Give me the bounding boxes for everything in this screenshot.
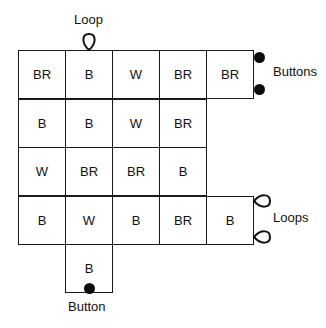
grid-cell: B bbox=[206, 196, 254, 245]
loop-icon-right-2 bbox=[253, 229, 271, 245]
grid-cell: BR bbox=[206, 50, 254, 99]
button-icon-bottom bbox=[84, 283, 95, 294]
button-icon-top-right-2 bbox=[254, 84, 265, 95]
grid-cell: B bbox=[65, 99, 113, 148]
loops-label: Loops bbox=[273, 210, 308, 225]
button-label: Button bbox=[68, 299, 106, 314]
grid-cell: W bbox=[112, 99, 160, 148]
loop-label: Loop bbox=[74, 12, 103, 27]
grid-cell: B bbox=[159, 147, 207, 196]
grid-cell: W bbox=[18, 147, 66, 196]
grid-cell: B bbox=[18, 99, 66, 148]
grid-cell: BR bbox=[65, 147, 113, 196]
grid-cell: BR bbox=[112, 147, 160, 196]
grid-cell: BR bbox=[18, 50, 66, 99]
loop-icon-right-1 bbox=[253, 193, 271, 209]
grid-cell: BR bbox=[159, 196, 207, 245]
grid-cell: W bbox=[65, 196, 113, 245]
buttons-label: Buttons bbox=[273, 64, 317, 79]
grid-cell: BR bbox=[159, 50, 207, 99]
grid-cell: B bbox=[112, 196, 160, 245]
grid-cell: B bbox=[18, 196, 66, 245]
button-icon-top-right-1 bbox=[254, 52, 265, 63]
loop-icon-top bbox=[81, 33, 97, 51]
grid-cell: B bbox=[65, 50, 113, 99]
grid-cell: W bbox=[112, 50, 160, 99]
grid-cell: BR bbox=[159, 99, 207, 148]
